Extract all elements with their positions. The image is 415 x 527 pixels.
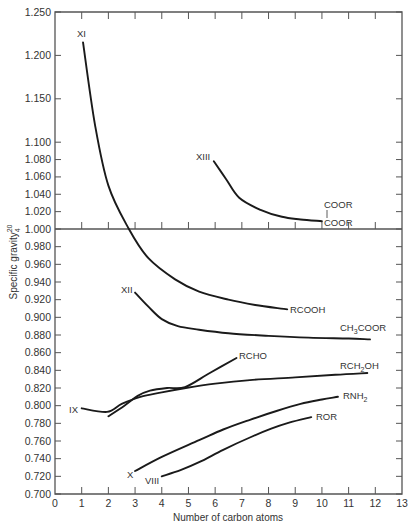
curve-rcooh [83,42,287,309]
label-rcooh: RCOOH [290,304,326,315]
y-tick-label: 1.200 [25,49,51,61]
x-tick-label: 2 [105,497,111,509]
label-xi: XI [77,28,86,39]
x-tick-label: 0 [52,497,58,509]
y-tick-label: 1.040 [25,188,51,200]
x-tick-label: 4 [159,497,165,509]
curve-coor-coor [214,161,322,221]
y-tick-label: 0.840 [25,364,51,376]
label-rch2oh: RCH2OH [340,360,379,373]
label-coor-top: COOR [324,199,353,210]
chart-canvas: 1.2501.2001.1501.1001.0801.0601.0401.020… [0,0,415,527]
x-axis-title: Number of carbon atoms [173,512,283,523]
y-tick-label: 0.900 [25,311,51,323]
y-tick-label: 0.720 [25,470,51,482]
x-tick-label: 1 [79,497,85,509]
y-tick-label: 1.080 [25,153,51,165]
label-xii: XII [121,284,133,295]
x-tick-label: 5 [186,497,192,509]
y-tick-label: 1.150 [25,92,51,104]
y-tick-label: 1.000 [25,223,51,235]
y-tick-label: 0.920 [25,293,51,305]
x-tick-label: 6 [212,497,218,509]
label-coor-bottom: COOR [324,217,353,228]
curve-rcho [108,358,236,416]
y-tick-label: 0.860 [25,346,51,358]
svg-text:Specific gravity420: Specific gravity420 [6,224,21,299]
plot-frame [55,12,402,494]
curve-rnh2 [135,397,338,471]
y-tick-label: 0.740 [25,452,51,464]
x-tick-label: 12 [369,497,381,509]
label-rcho: RCHO [239,350,267,361]
y-tick-label: 0.940 [25,276,51,288]
x-tick-label: 9 [292,497,298,509]
y-tick-label: 0.820 [25,382,51,394]
label-ror: ROR [316,411,337,422]
y-tick-label: 1.060 [25,170,51,182]
label-rnh2: RNH2 [343,390,368,403]
specific-gravity-chart: 1.2501.2001.1501.1001.0801.0601.0401.020… [0,0,415,527]
curve-ch3coor [135,293,370,340]
x-tick-label: 10 [316,497,328,509]
y-axis-title-text: Specific gravity [8,232,19,299]
label-viii: VIII [145,475,159,486]
y-tick-label: 0.800 [25,399,51,411]
y-tick-label: 0.780 [25,417,51,429]
x-tick-label: 3 [132,497,138,509]
y-tick-label: 0.980 [25,240,51,252]
curve-labels: XIXIIXIIIIXXVIIIRCOOHCH3COORCOORCOORRCHO… [69,28,386,486]
label-xiii: XIII [196,151,210,162]
y-tick-label: 0.880 [25,329,51,341]
x-tick-label: 11 [343,497,354,509]
y-tick-label: 1.020 [25,205,51,217]
y-tick-label: 0.700 [25,488,51,500]
label-ix: IX [69,404,79,415]
y-tick-label: 1.100 [25,136,51,148]
x-tick-label: 8 [266,497,272,509]
y-axis-title: Specific gravity420 [6,224,21,299]
y-tick-label: 1.250 [25,6,51,18]
axes: 1.2501.2001.1501.1001.0801.0601.0401.020… [25,6,408,510]
y-tick-label: 0.960 [25,258,51,270]
x-tick-label: 7 [239,497,245,509]
label-ch3coor: CH3COOR [340,322,386,335]
label-x: X [127,469,134,480]
x-tick-label: 13 [396,497,408,509]
y-tick-label: 0.760 [25,435,51,447]
